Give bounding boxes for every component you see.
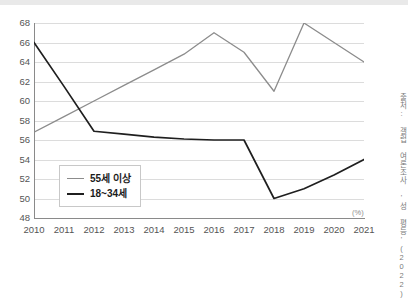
y-tick-label: 54 [6, 155, 30, 164]
x-tick-label: 2017 [227, 224, 261, 235]
legend-item[interactable]: 55세 이상 [67, 171, 131, 186]
y-tick-label: 64 [6, 57, 30, 66]
x-tick-label: 2018 [257, 224, 291, 235]
x-tick-label: 2016 [197, 224, 231, 235]
x-tick-label: 2014 [137, 224, 171, 235]
source-note: 출처: 갤럽 여론조사 '성 평등'(2022) [396, 93, 406, 298]
legend-item[interactable]: 18~34세 [67, 186, 131, 201]
legend-line-icon [67, 178, 84, 179]
x-axis-tick-labels: 2010201120122013201420152016201720182019… [34, 224, 365, 238]
y-tick-label: 58 [6, 116, 30, 125]
x-tick-label: 2012 [77, 224, 111, 235]
x-tick-label: 2011 [47, 224, 81, 235]
legend-label: 55세 이상 [90, 173, 131, 185]
x-tick-label: 2015 [167, 224, 201, 235]
y-tick-label: 52 [6, 174, 30, 183]
x-tick-label: 2021 [347, 224, 381, 235]
x-tick-label: 2019 [287, 224, 321, 235]
y-tick-label: 68 [6, 18, 30, 27]
y-tick-label: 56 [6, 135, 30, 144]
y-tick-label: 50 [6, 194, 30, 203]
line-chart-figure: 4850525456586062646668 20102011201220132… [0, 5, 408, 250]
x-tick-label: 2010 [17, 224, 51, 235]
y-tick-label: 48 [6, 213, 30, 222]
unit-label: (%) [352, 208, 364, 217]
y-tick-label: 66 [6, 38, 30, 47]
x-tick-label: 2020 [317, 224, 351, 235]
y-tick-label: 60 [6, 96, 30, 105]
x-tick-label: 2013 [107, 224, 141, 235]
legend-label: 18~34세 [90, 188, 127, 200]
y-axis-tick-labels: 4850525456586062646668 [0, 23, 30, 218]
y-tick-label: 62 [6, 77, 30, 86]
chart-legend: 55세 이상18~34세 [59, 165, 141, 207]
legend-line-icon [67, 193, 84, 195]
x-axis-line [34, 218, 365, 219]
